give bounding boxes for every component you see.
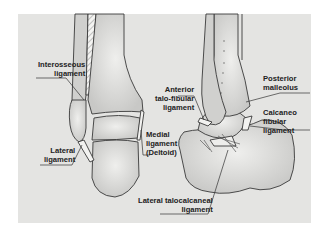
tibia [88, 14, 143, 114]
label-posterior-malleolus: Posterior malleolus [263, 74, 298, 92]
posterior-view [69, 14, 144, 197]
label-lateral-talocalcaneal-ligament: Lateral talocalcaneal ligament [138, 196, 213, 214]
lateral-malleolus [69, 100, 86, 142]
label-medial-ligament-deltoid: Medial ligament (Deltoid) [146, 130, 177, 157]
label-interosseous-ligament: Interosseous ligament [38, 60, 85, 78]
leader-posterior-malleolus [246, 93, 310, 102]
label-lateral-ligament: Lateral ligament [44, 146, 75, 164]
lateral-view [179, 14, 295, 193]
talus [92, 116, 140, 141]
label-anterior-talofibular-ligament: Anterior talo-fibular ligament [155, 85, 194, 112]
lateral-ligament [78, 140, 94, 162]
calcaneus [92, 140, 139, 197]
label-calcaneofibular-ligament: Calcaneo fibular ligament [263, 108, 297, 135]
